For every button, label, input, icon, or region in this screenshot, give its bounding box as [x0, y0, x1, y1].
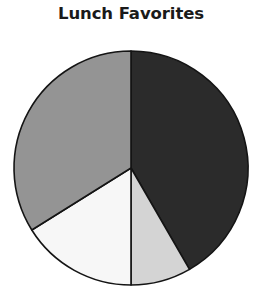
pie-chart-graphic: Slice 1: 41.7%Slice 2: 8.3%Slice 3: 16.1… — [0, 0, 262, 287]
pie-slice-group: Slice 1: 41.7%Slice 2: 8.3%Slice 3: 16.1… — [14, 51, 248, 285]
pie-chart-figure: Lunch Favorites Slice 1: 41.7%Slice 2: 8… — [0, 0, 262, 287]
